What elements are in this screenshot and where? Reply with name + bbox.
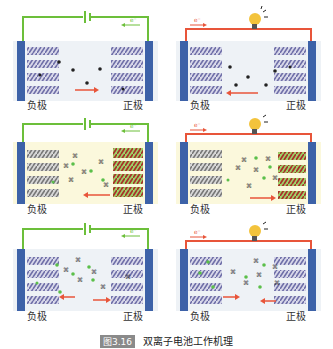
negative-label: 负极 (27, 308, 47, 323)
positive-label: 正极 (123, 308, 143, 323)
figure-title: 双离子电池工作机理 (143, 336, 233, 347)
svg-text:e⁻: e⁻ (130, 16, 137, 23)
svg-text:⌘: ⌘ (253, 166, 259, 173)
figure-caption: 图3.16双离子电池工作机理 (0, 333, 333, 348)
svg-text:e⁻: e⁻ (130, 227, 137, 234)
cell-diagram: e⁻ (5, 5, 165, 110)
panel-row1-charge: e⁻ 负极 正极 (5, 5, 165, 110)
svg-text:e⁻: e⁻ (194, 121, 201, 128)
negative-label: 负极 (190, 201, 210, 216)
svg-text:⌘: ⌘ (91, 268, 97, 275)
positive-electrode (145, 41, 153, 101)
svg-text:⌘: ⌘ (81, 168, 87, 175)
svg-text:⌘: ⌘ (241, 156, 247, 163)
svg-text:⌘: ⌘ (235, 164, 241, 171)
svg-text:⌘: ⌘ (77, 276, 83, 283)
svg-text:⌘: ⌘ (272, 174, 278, 181)
svg-text:⌘: ⌘ (230, 268, 236, 275)
panel-row2-charge: e⁻ ⌘⌘⌘ ⌘⌘⌘ 负极 正极 (5, 112, 165, 217)
cell-diagram: e⁻ ⌘⌘⌘ ⌘⌘⌘ (168, 217, 328, 322)
svg-text:⌘: ⌘ (100, 283, 106, 290)
negative-label: 负极 (27, 201, 47, 216)
svg-text:⌘: ⌘ (98, 158, 104, 165)
svg-text:⌘: ⌘ (253, 257, 259, 264)
svg-text:e⁻: e⁻ (194, 228, 201, 235)
cell-diagram: e⁻ (168, 5, 328, 110)
svg-text:⌘: ⌘ (72, 152, 78, 159)
panel-row1-discharge: e⁻ 负极 正极 (168, 5, 328, 110)
bulb-icon (249, 13, 261, 25)
cell-diagram: e⁻ ⌘⌘⌘ ⌘⌘⌘ (5, 217, 165, 322)
positive-label: 正极 (286, 97, 306, 112)
svg-text:⌘: ⌘ (68, 176, 74, 183)
svg-text:e⁻: e⁻ (194, 16, 201, 23)
svg-text:⌘: ⌘ (265, 155, 271, 162)
negative-label: 负极 (27, 97, 47, 112)
positive-label: 正极 (123, 97, 143, 112)
svg-text:⌘: ⌘ (256, 271, 262, 278)
figure-number: 图3.16 (100, 335, 135, 348)
svg-text:⌘: ⌘ (125, 273, 131, 280)
negative-label: 负极 (190, 308, 210, 323)
positive-label: 正极 (286, 201, 306, 216)
negative-label: 负极 (190, 97, 210, 112)
svg-text:⌘: ⌘ (63, 162, 69, 169)
svg-text:⌘: ⌘ (246, 182, 252, 189)
svg-text:⌘: ⌘ (243, 279, 249, 286)
svg-text:⌘: ⌘ (274, 279, 280, 286)
panel-row2-discharge: e⁻ ⌘⌘⌘ ⌘⌘⌘ 负极 正极 (168, 112, 328, 217)
negative-electrode (17, 41, 25, 101)
positive-label: 正极 (123, 201, 143, 216)
svg-text:⌘: ⌘ (75, 256, 81, 263)
svg-text:⌘: ⌘ (63, 266, 69, 273)
svg-text:e⁻: e⁻ (130, 122, 137, 129)
positive-label: 正极 (286, 308, 306, 323)
svg-text:⌘: ⌘ (272, 263, 278, 270)
svg-text:⌘: ⌘ (103, 181, 109, 188)
panel-row3-discharge: e⁻ ⌘⌘⌘ ⌘⌘⌘ 负极 正极 (168, 217, 328, 322)
panel-row3-charge: e⁻ ⌘⌘⌘ ⌘⌘⌘ 负极 正极 (5, 217, 165, 322)
